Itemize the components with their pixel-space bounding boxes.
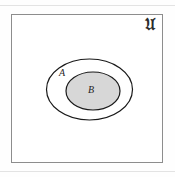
set-b-label: B bbox=[88, 85, 94, 95]
set-diagram-figure: 𝔘 A B bbox=[0, 0, 175, 177]
set-a-label: A bbox=[59, 68, 65, 78]
